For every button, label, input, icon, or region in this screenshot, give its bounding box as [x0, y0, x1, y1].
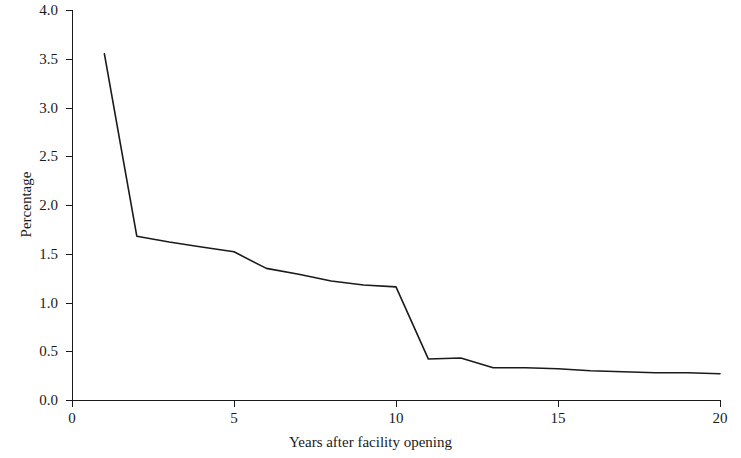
series-layer [0, 0, 741, 458]
x-axis-label: Years after facility opening [0, 434, 741, 451]
line-chart: 0.00.51.01.52.02.53.03.54.0 05101520 Per… [0, 0, 741, 458]
series-line-percentage [104, 54, 720, 374]
y-axis-label: Percentage [18, 145, 35, 265]
